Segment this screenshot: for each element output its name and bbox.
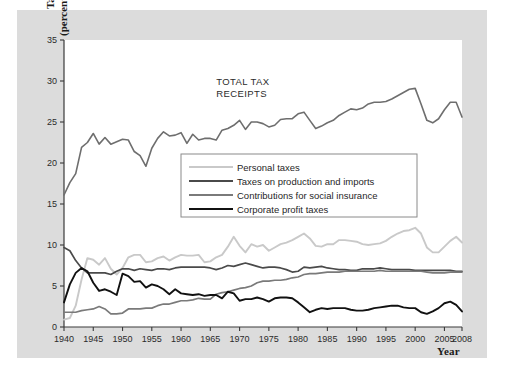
- legend-label: Corporate profit taxes: [237, 204, 329, 215]
- y-tick-label: 15: [47, 199, 57, 209]
- x-tick-label: 1985: [317, 334, 337, 344]
- legend-label: Personal taxes: [237, 162, 300, 173]
- x-tick-label: 1960: [171, 334, 191, 344]
- x-tick-label: 1955: [142, 334, 162, 344]
- y-tick-label: 30: [47, 76, 57, 86]
- annotation-total-tax-receipts: TOTAL TAX: [216, 76, 269, 87]
- x-tick-label: 1970: [230, 334, 250, 344]
- y-tick-label: 25: [47, 117, 57, 127]
- figure-root: Taxes (percent of GDP) Year 051015202530…: [0, 0, 505, 371]
- x-tick-label: 1945: [83, 334, 103, 344]
- x-tick-label: 1975: [259, 334, 279, 344]
- x-tick-label: 1965: [200, 334, 220, 344]
- y-tick-label: 10: [47, 240, 57, 250]
- y-tick-label: 0: [52, 322, 57, 332]
- x-tick-label: 2008: [452, 334, 472, 344]
- x-tick-label: 2000: [405, 334, 425, 344]
- x-tick-label: 1950: [113, 334, 133, 344]
- chart-canvas: 0510152025303519401945195019551960196519…: [0, 0, 505, 371]
- y-tick-label: 5: [52, 281, 57, 291]
- x-tick-label: 1940: [54, 334, 74, 344]
- legend-label: Taxes on production and imports: [237, 176, 375, 187]
- x-tick-label: 1995: [376, 334, 396, 344]
- y-tick-label: 35: [47, 35, 57, 45]
- annotation-total-tax-receipts-line2: RECEIPTS: [216, 88, 267, 99]
- x-tick-label: 1990: [347, 334, 367, 344]
- legend-label: Contributions for social insurance: [237, 190, 377, 201]
- x-tick-label: 1980: [288, 334, 308, 344]
- y-tick-label: 20: [47, 158, 57, 168]
